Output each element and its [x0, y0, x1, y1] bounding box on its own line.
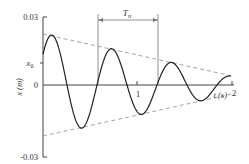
- x-tick-label-2: 2: [232, 88, 237, 98]
- period-label: Tn: [123, 8, 131, 19]
- period-arrow-left: [98, 18, 103, 22]
- damped-vibration-diagram: 0.03 -0.03 0 x0 x (m) 1 2 t (s) Tn: [0, 0, 249, 164]
- y-axis-title: x (m): [14, 78, 24, 97]
- y-tick-label-bottom: -0.03: [20, 152, 38, 162]
- y-tick-label-x0: x0: [26, 58, 34, 69]
- y-tick-label-zero: 0: [34, 80, 38, 90]
- upper-envelope: [43, 34, 232, 76]
- period-arrow-right: [153, 18, 158, 22]
- x-tick-label-1: 1: [136, 89, 141, 99]
- x-axis-title: t (s): [214, 90, 228, 100]
- y-tick-label-top: 0.03: [23, 12, 38, 22]
